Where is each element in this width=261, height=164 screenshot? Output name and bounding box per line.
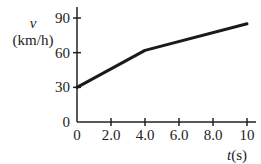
axes [77, 7, 256, 122]
x-tick-label: 0 [73, 127, 81, 143]
x-tick-label: 6.0 [170, 127, 189, 143]
x-tick-label: 10 [240, 127, 255, 143]
y-axis-unit: (km/h) [13, 32, 54, 49]
y-tick-label: 0 [63, 114, 71, 130]
series-line-velocity [77, 24, 247, 88]
y-axis-symbol: v [30, 15, 37, 31]
x-tick-label: 2.0 [102, 127, 121, 143]
x-axis-label: t(s) [227, 147, 247, 164]
data-line [77, 24, 247, 88]
x-tick-label: 8.0 [204, 127, 223, 143]
y-tick-label: 60 [55, 45, 70, 61]
x-tick-label: 4.0 [136, 127, 155, 143]
velocity-time-chart: 02.04.06.08.0100306090 v (km/h) t(s) [0, 0, 261, 164]
y-tick-label: 90 [55, 10, 70, 26]
x-axis-unit: (s) [231, 147, 247, 164]
y-tick-label: 30 [55, 79, 70, 95]
